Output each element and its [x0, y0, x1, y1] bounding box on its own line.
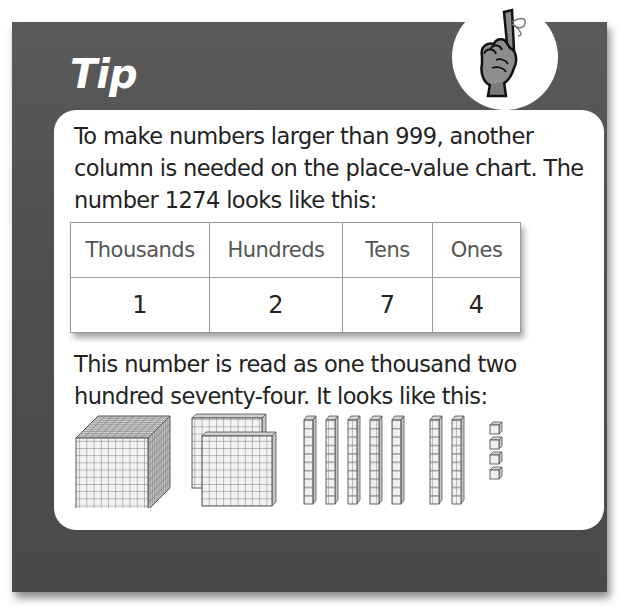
table-row: 1 2 7 4 [71, 278, 521, 333]
table-header-row: Thousands Hundreds Tens Ones [71, 223, 521, 278]
value-tens: 7 [343, 278, 433, 333]
unit-cube-icon [490, 467, 502, 479]
base-ten-blocks [72, 412, 592, 508]
thousand-cube-icon [76, 416, 170, 508]
unit-cube-icon [490, 437, 502, 449]
hand-finger-string-icon [452, 4, 558, 110]
header-thousands: Thousands [71, 223, 210, 278]
ten-rod-icon [348, 416, 360, 504]
reading-paragraph: This number is read as one thousand two … [74, 348, 594, 412]
unit-cube-icon [490, 422, 502, 434]
tip-title: Tip [70, 54, 137, 94]
value-ones: 4 [433, 278, 521, 333]
header-tens: Tens [343, 223, 433, 278]
value-thousands: 1 [71, 278, 210, 333]
ten-rod-icon [304, 416, 316, 504]
tip-content-panel: To make numbers larger than 999, another… [54, 110, 604, 530]
value-hundreds: 2 [210, 278, 343, 333]
tip-card: Tip To make numbers larger than 999, ano… [12, 22, 607, 592]
header-hundreds: Hundreds [210, 223, 343, 278]
unit-cube-icon [490, 452, 502, 464]
intro-paragraph: To make numbers larger than 999, another… [74, 120, 594, 216]
hundred-flat-icon [202, 432, 276, 506]
place-value-table: Thousands Hundreds Tens Ones 1 2 7 4 [70, 222, 521, 333]
ten-rod-icon [452, 416, 464, 504]
ten-rod-icon [326, 416, 338, 504]
header-ones: Ones [433, 223, 521, 278]
ten-rod-icon [392, 416, 404, 504]
ten-rod-icon [430, 416, 442, 504]
ten-rod-icon [370, 416, 382, 504]
